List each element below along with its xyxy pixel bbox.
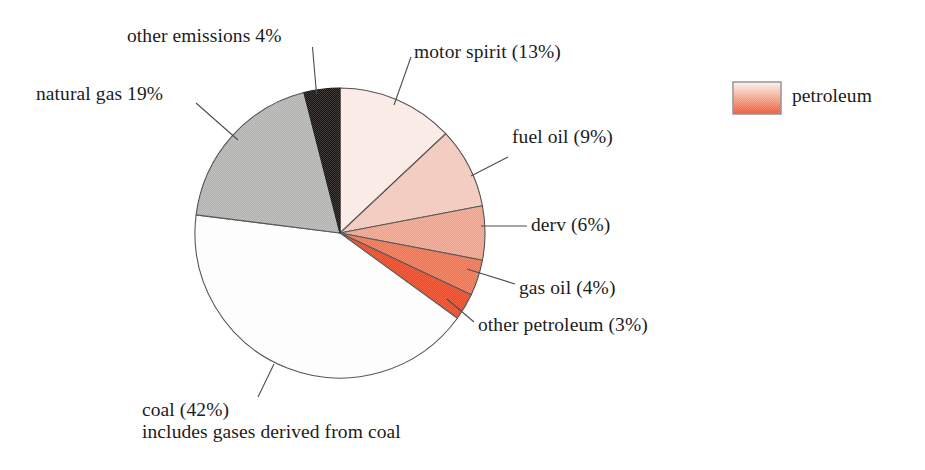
pie-label-fuel-oil: fuel oil (9%) (512, 126, 613, 148)
legend-swatch-texture (733, 82, 781, 114)
pie-label-derv: derv (6%) (531, 214, 610, 236)
pie-label-coal-note: includes gases derived from coal (142, 421, 401, 443)
leader-line-coal (258, 364, 274, 397)
leader-line-motor-spirit (394, 57, 411, 105)
leader-line-natural-gas (196, 103, 238, 140)
pie-label-other-petroleum: other petroleum (3%) (478, 314, 648, 336)
leader-line-other-emissions (313, 47, 317, 94)
leader-line-fuel-oil (471, 157, 508, 176)
pie-label-gas-oil: gas oil (4%) (519, 277, 616, 299)
pie-chart-figure (0, 0, 925, 470)
chart-canvas: other emissions 4% natural gas 19% motor… (0, 0, 925, 470)
pie-texture-overlay (195, 88, 485, 378)
pie-label-motor-spirit: motor spirit (13%) (414, 41, 561, 63)
legend-label-petroleum: petroleum (792, 85, 872, 107)
pie-label-coal: coal (42%) (142, 399, 229, 421)
pie-label-natural-gas: natural gas 19% (36, 83, 163, 105)
pie-label-other-emissions: other emissions 4% (127, 25, 282, 47)
